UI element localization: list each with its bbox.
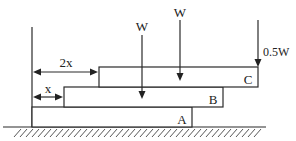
hatch-stroke xyxy=(194,129,201,137)
hatch-stroke xyxy=(14,129,21,137)
hatch-stroke xyxy=(128,129,135,137)
arrowhead-right-icon xyxy=(55,94,63,101)
arrowhead-right-icon xyxy=(90,69,98,76)
hatch-stroke xyxy=(134,129,141,137)
dimension-2x-label: 2x xyxy=(60,55,74,70)
stacked-blocks-diagram: A B C 2x x W W 0.5W xyxy=(0,0,296,141)
load-half-w-label: 0.5W xyxy=(263,45,290,59)
hatch-stroke xyxy=(236,129,243,137)
arrow-down-icon xyxy=(255,59,262,67)
hatch-stroke xyxy=(164,129,171,137)
load-arrow-half-w: 0.5W xyxy=(255,20,291,67)
hatch-stroke xyxy=(26,129,33,137)
hatch-stroke xyxy=(182,129,189,137)
hatch-stroke xyxy=(116,129,123,137)
hatch-stroke xyxy=(86,129,93,137)
hatch-stroke xyxy=(176,129,183,137)
hatch-stroke xyxy=(38,129,45,137)
hatch-stroke xyxy=(146,129,153,137)
block-b xyxy=(64,87,223,107)
hatch-stroke xyxy=(92,129,99,137)
hatch-stroke xyxy=(68,129,75,137)
arrowhead-left-icon xyxy=(33,69,41,76)
dimension-2x: 2x xyxy=(33,55,98,76)
hatch-stroke xyxy=(62,129,69,137)
hatch-stroke xyxy=(32,129,39,137)
arrowhead-left-icon xyxy=(33,94,41,101)
hatch-stroke xyxy=(224,129,231,137)
block-a-label: A xyxy=(177,112,187,127)
hatch-stroke xyxy=(254,129,261,137)
hatch-stroke xyxy=(20,129,27,137)
hatch-stroke xyxy=(122,129,129,137)
hatch-stroke xyxy=(248,129,255,137)
hatch-stroke xyxy=(50,129,57,137)
ground-hatching xyxy=(14,129,261,137)
hatch-stroke xyxy=(44,129,51,137)
hatch-stroke xyxy=(170,129,177,137)
hatch-stroke xyxy=(98,129,105,137)
hatch-stroke xyxy=(110,129,117,137)
hatch-stroke xyxy=(74,129,81,137)
hatch-stroke xyxy=(188,129,195,137)
load-w-b-label: W xyxy=(136,19,149,34)
hatch-stroke xyxy=(152,129,159,137)
hatch-stroke xyxy=(230,129,237,137)
hatch-stroke xyxy=(80,129,87,137)
hatch-stroke xyxy=(212,129,219,137)
hatch-stroke xyxy=(140,129,147,137)
hatch-stroke xyxy=(242,129,249,137)
hatch-stroke xyxy=(200,129,207,137)
load-w-c-label: W xyxy=(174,5,187,20)
dimension-x-label: x xyxy=(45,81,52,96)
block-b-label: B xyxy=(209,92,218,107)
dimension-x: x xyxy=(33,81,63,101)
block-a xyxy=(32,107,192,127)
hatch-stroke xyxy=(206,129,213,137)
block-c-label: C xyxy=(244,72,253,87)
hatch-stroke xyxy=(104,129,111,137)
hatch-stroke xyxy=(218,129,225,137)
hatch-stroke xyxy=(56,129,63,137)
hatch-stroke xyxy=(158,129,165,137)
